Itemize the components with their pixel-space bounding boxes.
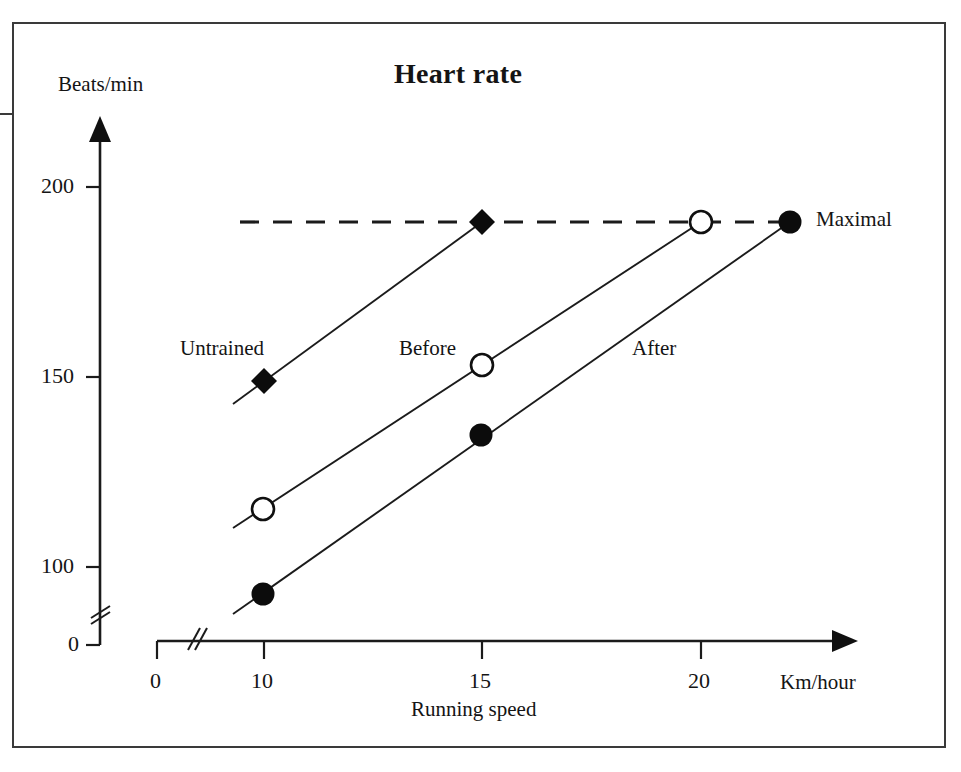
marker-before-10 [252,498,274,520]
x-axis [157,628,858,659]
marker-after-22 [779,211,802,234]
marker-untrained-15 [469,209,495,235]
y-tick-label-150: 150 [41,363,74,389]
y-axis [86,116,111,645]
x-tick-label-20: 20 [688,668,710,694]
maximal-label: Maximal [816,207,892,232]
series-after [233,211,802,615]
series-untrained [233,209,495,404]
y-tick-label-100: 100 [41,553,74,579]
series-label-before: Before [399,336,456,361]
series-before [233,211,712,528]
series-label-after: After [632,336,676,361]
series-label-untrained: Untrained [180,336,264,361]
x-axis-caption: Running speed [411,697,536,722]
y-axis-unit-label: Beats/min [58,72,143,97]
chart-canvas [0,0,961,772]
x-axis-arrowhead [832,630,858,652]
figure-root: Heart rate Beats/min 200 150 100 0 0 10 … [0,0,961,772]
x-tick-label-10: 10 [251,668,273,694]
page-title: Heart rate [394,58,522,90]
x-axis-unit-label: Km/hour [780,670,856,695]
x-tick-label-15: 15 [469,668,491,694]
marker-after-10 [252,583,275,606]
x-axis-break-icon [188,628,207,650]
y-tick-label-200: 200 [41,173,74,199]
marker-after-15 [470,424,493,447]
marker-before-20 [690,211,712,233]
marker-untrained-10 [251,368,277,394]
x-tick-label-0: 0 [150,668,161,694]
y-axis-arrowhead [89,116,111,142]
y-tick-label-0: 0 [68,631,79,657]
marker-before-15 [471,354,493,376]
